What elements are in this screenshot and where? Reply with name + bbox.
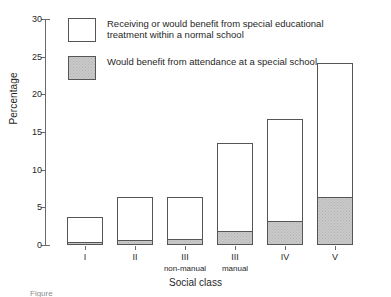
legend-swatch-shaded bbox=[68, 56, 96, 80]
bar-group bbox=[217, 19, 253, 245]
y-tick-label: 25 bbox=[18, 53, 42, 62]
bar-total bbox=[217, 143, 253, 245]
bar-group bbox=[267, 19, 303, 245]
x-tick bbox=[285, 246, 286, 250]
bar-group bbox=[117, 19, 153, 245]
bar-segment-special-school bbox=[168, 239, 202, 244]
x-tick-label: I bbox=[60, 252, 110, 262]
y-tick-label: 30 bbox=[18, 15, 42, 24]
x-tick-label: IV bbox=[260, 252, 310, 262]
bar-total bbox=[167, 197, 203, 245]
legend-label-special-school: Would benefit from attendance at a speci… bbox=[107, 56, 391, 67]
y-tick-label: 5 bbox=[18, 203, 42, 212]
y-tick-label: 0 bbox=[18, 241, 42, 250]
legend-swatch-open bbox=[68, 18, 96, 42]
bar-total bbox=[67, 217, 103, 245]
y-axis-bottom-cap bbox=[45, 245, 50, 246]
bar-segment-special-school bbox=[118, 240, 152, 244]
x-tick bbox=[135, 246, 136, 250]
x-tick-label: II bbox=[110, 252, 160, 262]
x-tick-label: III bbox=[160, 252, 210, 262]
plot-area bbox=[45, 19, 385, 245]
bar-total bbox=[117, 197, 153, 245]
x-tick-sublabel: manual bbox=[200, 264, 270, 273]
bar-total bbox=[317, 63, 353, 245]
figure-caption-text: Figure bbox=[30, 291, 391, 297]
bar-group bbox=[317, 19, 353, 245]
x-tick bbox=[185, 246, 186, 250]
x-tick-label: III bbox=[210, 252, 260, 262]
bar-total bbox=[267, 119, 303, 245]
y-axis-title: Percentage bbox=[8, 54, 19, 144]
figure-caption: Figure bbox=[0, 291, 391, 297]
x-tick-label: V bbox=[310, 252, 360, 262]
x-axis-title: Social class bbox=[0, 277, 391, 288]
y-tick-label: 15 bbox=[18, 128, 42, 137]
bar-segment-special-school bbox=[218, 231, 252, 244]
y-tick-label: 10 bbox=[18, 166, 42, 175]
x-tick bbox=[235, 246, 236, 250]
bar-group bbox=[67, 19, 103, 245]
bar-segment-special-school bbox=[318, 197, 352, 244]
bar-group bbox=[167, 19, 203, 245]
legend-label-normal-school: Receiving or would benefit from special … bbox=[107, 18, 391, 40]
bar-chart: 051015202530 Percentage Social class III… bbox=[0, 0, 391, 297]
bar-segment-special-school bbox=[68, 242, 102, 244]
x-tick bbox=[85, 246, 86, 250]
bar-segment-special-school bbox=[268, 221, 302, 244]
x-tick bbox=[335, 246, 336, 250]
y-tick-label: 20 bbox=[18, 90, 42, 99]
